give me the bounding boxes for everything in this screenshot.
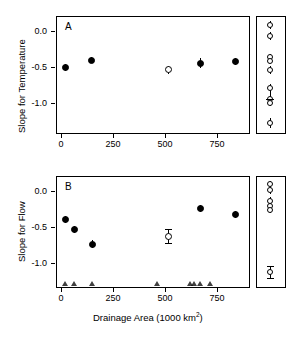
panel-a-marginal-point bbox=[267, 120, 273, 126]
panel-a-xtick-0: 0 bbox=[49, 139, 73, 149]
panel-b-point-filled bbox=[197, 205, 204, 212]
panel-a-ytick-1: -0.5 bbox=[22, 62, 47, 72]
panel-a-ytick-mark-0 bbox=[51, 31, 55, 32]
panel-b-marginal-point bbox=[267, 187, 273, 193]
panel-a-marginal-point bbox=[267, 33, 273, 39]
panel-b-xtick-0: 0 bbox=[49, 293, 73, 303]
panel-b-xtick-1: 250 bbox=[101, 293, 125, 303]
panel-b-ytick-mark-0 bbox=[51, 191, 55, 192]
panel-b-xtick-mark-0 bbox=[61, 288, 62, 292]
panel-a-xtick-mark-3 bbox=[217, 134, 218, 138]
panel-b-rug-triangle bbox=[197, 281, 203, 286]
panel-b-xtick-mark-3 bbox=[217, 288, 218, 292]
x-axis-label: Drainage Area (1000 km2) bbox=[93, 311, 203, 323]
panel-b-marginal-point bbox=[267, 269, 273, 275]
panel-a-ytick-0: 0.0 bbox=[22, 26, 47, 36]
panel-b-marginal-point bbox=[267, 207, 273, 213]
panel-b-xtick-mark-2 bbox=[165, 288, 166, 292]
panel-b-errorcap bbox=[165, 243, 172, 244]
panel-b-ytick-1: -0.5 bbox=[22, 222, 47, 232]
panel-a-point-filled bbox=[197, 60, 204, 67]
panel-b-ytick-mark-2 bbox=[51, 263, 55, 264]
panel-b-rug-triangle bbox=[154, 281, 160, 286]
panel-b-point-filled bbox=[232, 211, 239, 218]
panel-a-xtick-1: 250 bbox=[101, 139, 125, 149]
panel-b-point-open bbox=[165, 233, 172, 240]
panel-b-ytick-0: 0.0 bbox=[22, 186, 47, 196]
panel-b-xtick-3: 750 bbox=[205, 293, 229, 303]
panel-a-ytick-mark-1 bbox=[51, 67, 55, 68]
panel-a-ytick-mark-2 bbox=[51, 103, 55, 104]
panel-a-marginal-point bbox=[267, 67, 273, 73]
panel-a-xtick-2: 500 bbox=[153, 139, 177, 149]
panel-a-ytick-2: -1.0 bbox=[22, 98, 47, 108]
panel-a-xtick-3: 750 bbox=[205, 139, 229, 149]
panel-b-rug-triangle bbox=[89, 281, 95, 286]
panel-b-point-filled bbox=[89, 241, 96, 248]
panel-a-marginal-point bbox=[267, 58, 273, 64]
panel-b-plot-area: B bbox=[56, 176, 250, 288]
panel-b-ytick-2: -1.0 bbox=[22, 258, 47, 268]
panel-b-rug-triangle bbox=[207, 281, 213, 286]
panel-a-xtick-mark-0 bbox=[61, 134, 62, 138]
panel-a-marginal-point bbox=[267, 85, 273, 91]
x-axis-label-close: ) bbox=[200, 312, 203, 323]
panel-b-ytick-mark-1 bbox=[51, 227, 55, 228]
panel-b-marginal-errorcap bbox=[267, 266, 274, 267]
panel-a-point-open bbox=[165, 66, 172, 73]
panel-b-rug-triangle bbox=[71, 281, 77, 286]
panel-a-point-filled bbox=[232, 58, 239, 65]
panel-a-plot-area: A bbox=[56, 16, 250, 134]
panel-a-marginal-point bbox=[267, 22, 273, 28]
panel-a-point-filled bbox=[88, 57, 95, 64]
panel-a-marginal-errorcap bbox=[266, 99, 274, 100]
panel-b-letter: B bbox=[65, 181, 72, 192]
panel-b-errorcap bbox=[165, 229, 172, 230]
x-axis-label-text: Drainage Area (1000 km bbox=[93, 312, 196, 323]
panel-a-point-filled bbox=[62, 64, 69, 71]
panel-a-xtick-mark-2 bbox=[165, 134, 166, 138]
panel-b-rug-triangle bbox=[62, 281, 68, 286]
panel-b-marginal-errorcap bbox=[267, 278, 274, 279]
panel-b-point-filled bbox=[62, 216, 69, 223]
panel-a-marginal-point bbox=[267, 100, 273, 106]
panel-b-xtick-2: 500 bbox=[153, 293, 177, 303]
panel-a-y-axis-label: Slope for Temperature bbox=[16, 39, 27, 133]
panel-b-point-filled bbox=[71, 226, 78, 233]
panel-b-xtick-mark-1 bbox=[113, 288, 114, 292]
figure-canvas: Slope for Temperature 0.0 -0.5 -1.0 A 0 … bbox=[0, 0, 295, 338]
panel-a-xtick-mark-1 bbox=[113, 134, 114, 138]
panel-a-letter: A bbox=[65, 21, 72, 32]
